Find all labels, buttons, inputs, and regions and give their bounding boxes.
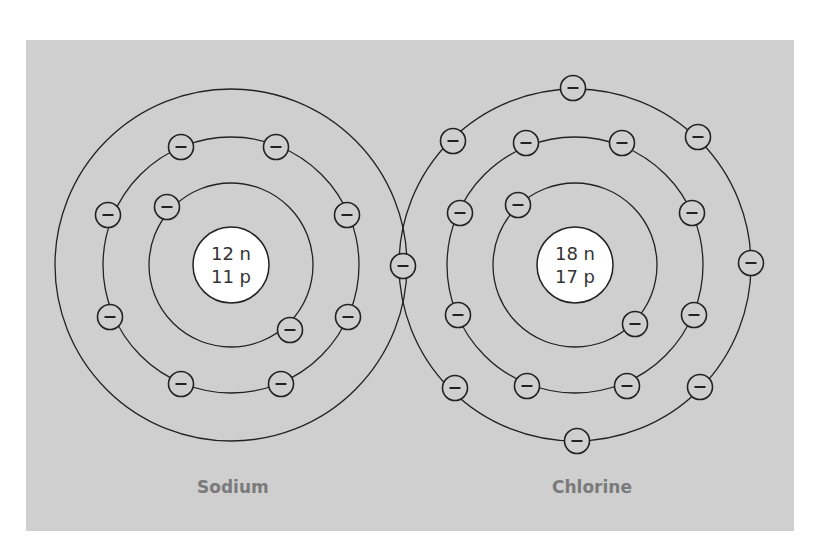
sodium-electron	[269, 372, 294, 397]
chlorine-electron	[514, 131, 539, 156]
chlorine-neutrons: 18 n	[555, 243, 595, 264]
chlorine-electron	[443, 376, 468, 401]
chlorine-electron	[682, 303, 707, 328]
sodium-electron	[278, 318, 303, 343]
chlorine-electron	[506, 193, 531, 218]
sodium-electron	[336, 305, 361, 330]
sodium-electron	[169, 372, 194, 397]
chlorine-electron	[680, 201, 705, 226]
chlorine-electron	[615, 374, 640, 399]
chlorine-electron	[448, 201, 473, 226]
chlorine-electron	[686, 125, 711, 150]
sodium-electron	[155, 195, 180, 220]
chlorine-electron	[688, 375, 713, 400]
chlorine-electron	[623, 312, 648, 337]
chlorine-electron	[610, 131, 635, 156]
sodium-electron	[264, 135, 289, 160]
sodium-neutrons: 12 n	[211, 243, 251, 264]
chlorine-electron	[441, 129, 466, 154]
sodium-electron	[96, 203, 121, 228]
sodium-protons: 11 p	[211, 266, 251, 287]
sodium-electron	[335, 203, 360, 228]
chlorine-electron	[515, 374, 540, 399]
chlorine-nucleus: 18 n 17 p	[537, 227, 613, 303]
chlorine-electron	[561, 76, 586, 101]
sodium-electron	[391, 254, 416, 279]
atom-diagram: 12 n 11 p 18 n 17 p	[0, 0, 818, 558]
sodium-nucleus: 12 n 11 p	[193, 227, 269, 303]
chlorine-electron	[565, 429, 590, 454]
chlorine-label: Chlorine	[552, 477, 632, 497]
chlorine-electron	[739, 251, 764, 276]
sodium-label: Sodium	[197, 477, 269, 497]
chlorine-protons: 17 p	[555, 266, 595, 287]
sodium-electron	[98, 305, 123, 330]
sodium-electron	[169, 135, 194, 160]
chlorine-electron	[446, 303, 471, 328]
